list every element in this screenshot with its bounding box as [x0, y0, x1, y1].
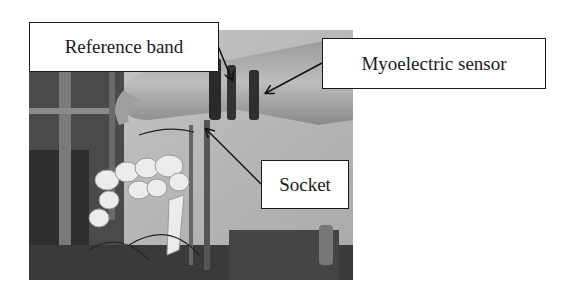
socket-arrow	[206, 129, 261, 184]
reference-band-label-box: Reference band	[29, 22, 219, 72]
myoelectric-sensor-label-box: Myoelectric sensor	[322, 38, 546, 89]
myoelectric-sensor-arrow	[266, 63, 322, 93]
reference-band-arrow	[218, 46, 232, 80]
socket-label: Socket	[279, 174, 331, 196]
myoelectric-sensor-label: Myoelectric sensor	[361, 53, 506, 75]
figure: Reference band Myoelectric sensor Socket	[0, 0, 573, 295]
reference-band-label: Reference band	[65, 36, 184, 58]
socket-label-box: Socket	[261, 160, 349, 209]
